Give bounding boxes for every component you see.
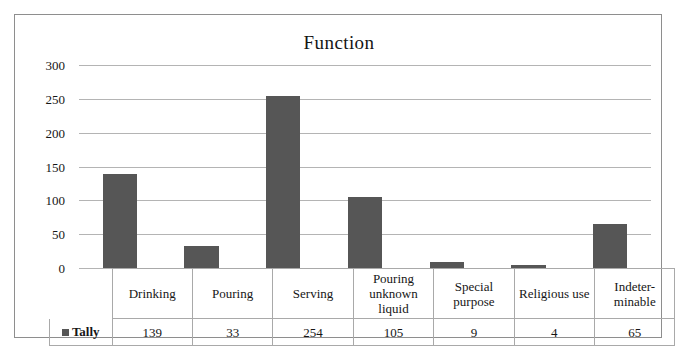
table-cell-value: 139 [112,319,192,346]
y-axis: 300250200150100500 [15,65,73,268]
plot-area [79,65,651,268]
y-axis-tick-100: 100 [46,194,66,207]
bar-pouring-unknown-liquid[interactable] [348,197,382,268]
bar-slot [242,65,324,268]
y-axis-tick-200: 200 [46,126,66,139]
table-cell-category: Religious use [514,269,594,319]
table-cell-category: Pouringunknownliquid [353,269,433,319]
legend-entry-tally: Tally [50,319,113,346]
table-cell-category: Indeter-minable [595,269,675,319]
legend-label: Tally [72,324,100,339]
data-table: DrinkingPouringServingPouringunknownliqu… [49,268,675,346]
table-row-values: Tally 139332541059465 [50,319,675,346]
table-cell-category: Serving [273,269,353,319]
table-cell-category: Specialpurpose [434,269,514,319]
bar-slot [488,65,570,268]
bar-indeterminable[interactable] [593,224,627,268]
bar-slot [161,65,243,268]
bar-drinking[interactable] [103,174,137,268]
table-cell-value: 4 [514,319,594,346]
bar-slot [79,65,161,268]
table-cell-category: Drinking [112,269,192,319]
bar-series-tally [79,65,651,268]
table-row-categories: DrinkingPouringServingPouringunknownliqu… [50,269,675,319]
y-axis-tick-300: 300 [46,59,66,72]
legend-swatch-icon [62,329,69,336]
table-cell-category: Pouring [192,269,272,319]
bar-pouring[interactable] [184,246,218,268]
chart-title: Function [15,32,663,54]
table-cell-value: 33 [192,319,272,346]
table-corner-cell [50,269,113,319]
chart-figure: Function 300250200150100500 DrinkingPour… [0,0,677,349]
table-cell-value: 105 [353,319,433,346]
table-cell-value: 65 [595,319,675,346]
chart-frame-border: Function 300250200150100500 DrinkingPour… [14,14,662,338]
bar-serving[interactable] [266,96,300,268]
table-cell-value: 254 [273,319,353,346]
bar-slot [406,65,488,268]
y-axis-tick-150: 150 [46,160,66,173]
bar-slot [569,65,651,268]
y-axis-tick-50: 50 [52,228,65,241]
table-cell-value: 9 [434,319,514,346]
y-axis-tick-250: 250 [46,92,66,105]
bar-slot [324,65,406,268]
